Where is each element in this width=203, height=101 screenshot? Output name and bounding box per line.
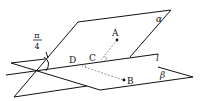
angle-leader <box>46 52 48 58</box>
label-C: C <box>89 53 96 63</box>
label-A: A <box>111 28 119 38</box>
label-alpha: α <box>156 14 162 24</box>
label-l: l <box>156 53 159 63</box>
angle-numerator: π <box>34 31 39 40</box>
angle-denominator: 4 <box>34 42 39 51</box>
right-angle-C <box>104 56 107 61</box>
segment-BD <box>82 66 123 80</box>
point-B <box>123 79 126 82</box>
segment-AC <box>101 40 117 60</box>
point-A <box>116 39 119 42</box>
line-l <box>6 54 158 75</box>
label-beta: β <box>159 70 165 80</box>
label-D: D <box>69 55 76 65</box>
label-B: B <box>127 76 134 86</box>
diagram-canvas: A B C D α β l π 4 <box>0 0 203 101</box>
dihedral-diagram: A B C D α β l π 4 <box>0 0 203 101</box>
plane-beta-edge <box>11 59 193 90</box>
